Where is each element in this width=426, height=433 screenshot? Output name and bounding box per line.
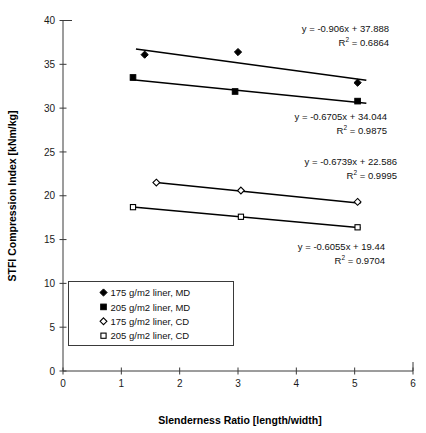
x-tick-label: 0	[60, 378, 66, 389]
y-tick-label: 10	[44, 278, 56, 289]
equation-annotation: y = -0.6739x + 22.586	[305, 156, 397, 167]
data-point-open-square	[355, 225, 360, 230]
y-tick-label: 0	[49, 366, 55, 377]
y-tick-label: 5	[49, 322, 55, 333]
chart-background	[0, 0, 426, 433]
data-point-filled-square	[355, 98, 361, 104]
equation-annotation: y = -0.6705x + 34.044	[295, 111, 387, 122]
stfi-compression-scatter-chart: 0510152025303540 0123456 y = -0.906x + 3…	[0, 0, 426, 433]
legend-item-1[interactable]: 175 g/m2 liner, MD	[100, 287, 190, 298]
x-tick-label: 5	[352, 378, 358, 389]
x-tick-label: 1	[119, 378, 125, 389]
data-point-open-square	[130, 205, 135, 210]
data-point-filled-square	[232, 89, 238, 95]
data-point-filled-square	[130, 75, 136, 81]
x-tick-label: 3	[235, 378, 241, 389]
y-axis-title: STFI Compression Index [kNm/kg]	[6, 111, 18, 282]
x-tick-label: 6	[410, 378, 416, 389]
y-tick-label: 25	[44, 147, 56, 158]
legend-item-2[interactable]: 205 g/m2 liner, MD	[101, 302, 191, 313]
legend-item-4[interactable]: 205 g/m2 liner, CD	[101, 330, 189, 341]
chart-container: 0510152025303540 0123456 y = -0.906x + 3…	[0, 0, 426, 433]
legend-marker-open-square	[101, 333, 106, 338]
y-tick-label: 35	[44, 59, 56, 70]
equation-annotation: y = -0.6055x + 19.44	[298, 241, 385, 252]
chart-legend[interactable]: 175 g/m2 liner, MD205 g/m2 liner, MD175 …	[69, 282, 234, 346]
data-point-open-square	[238, 214, 243, 219]
y-tick-label: 15	[44, 234, 56, 245]
legend-label: 175 g/m2 liner, CD	[111, 316, 190, 327]
legend-item-3[interactable]: 175 g/m2 liner, CD	[100, 316, 189, 327]
legend-label: 205 g/m2 liner, MD	[111, 302, 191, 313]
legend-label: 205 g/m2 liner, CD	[111, 330, 190, 341]
y-tick-label: 40	[44, 15, 56, 26]
legend-label: 175 g/m2 liner, MD	[111, 287, 191, 298]
equation-annotation: y = -0.906x + 37.888	[302, 23, 389, 34]
x-tick-label: 4	[294, 378, 300, 389]
y-tick-label: 20	[44, 190, 56, 201]
x-axis-title: Slenderness Ratio [length/width]	[158, 414, 321, 426]
legend-marker-filled-square	[101, 304, 107, 310]
y-tick-label: 30	[44, 103, 56, 114]
x-tick-label: 2	[177, 378, 183, 389]
